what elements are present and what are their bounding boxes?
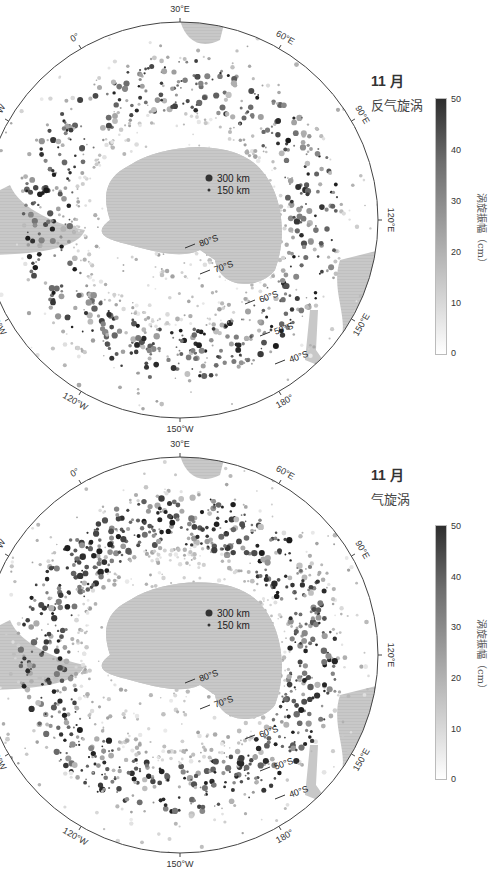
eddy-marker <box>101 585 106 590</box>
eddy-marker <box>212 322 216 326</box>
eddy-marker <box>107 573 109 575</box>
eddy-marker <box>186 355 192 361</box>
eddy-marker <box>302 133 306 137</box>
eddy-marker <box>12 557 14 559</box>
eddy-marker <box>83 595 85 597</box>
eddy-marker <box>179 825 181 827</box>
eddy-marker <box>233 571 237 575</box>
eddy-marker <box>153 549 157 553</box>
eddy-marker <box>106 738 112 744</box>
eddy-marker <box>253 149 257 153</box>
eddy-marker <box>224 781 227 784</box>
eddy-marker <box>290 200 294 204</box>
eddy-marker <box>181 723 183 725</box>
eddy-marker <box>256 490 258 492</box>
eddy-marker <box>229 798 235 804</box>
eddy-marker <box>306 551 308 553</box>
eddy-marker <box>45 577 50 582</box>
eddy-marker <box>284 575 287 578</box>
eddy-marker <box>100 125 106 131</box>
eddy-marker <box>108 347 111 350</box>
eddy-marker <box>308 348 310 350</box>
eddy-marker <box>329 631 332 634</box>
eddy-marker <box>200 787 202 789</box>
eddy-marker <box>139 702 142 705</box>
eddy-marker <box>196 342 202 348</box>
eddy-marker <box>281 696 283 698</box>
eddy-marker <box>287 668 290 671</box>
eddy-marker <box>232 543 234 545</box>
eddy-marker <box>182 78 187 83</box>
eddy-marker <box>87 252 91 256</box>
eddy-marker <box>79 272 81 274</box>
eddy-marker <box>64 720 69 725</box>
eddy-marker <box>121 349 126 354</box>
eddy-marker <box>97 217 100 220</box>
eddy-marker <box>246 149 249 152</box>
eddy-marker <box>13 580 16 583</box>
eddy-marker <box>176 346 178 348</box>
eddy-marker <box>38 783 42 787</box>
eddy-marker <box>39 147 43 151</box>
eddy-marker <box>172 337 174 339</box>
eddy-marker <box>88 786 90 788</box>
eddy-marker <box>188 515 194 521</box>
eddy-marker <box>218 331 222 335</box>
eddy-marker <box>65 628 68 631</box>
colorbar-tick: 20 <box>451 673 461 683</box>
eddy-marker <box>263 758 269 764</box>
eddy-marker <box>232 62 234 64</box>
eddy-marker <box>147 67 150 70</box>
eddy-marker <box>262 597 265 600</box>
eddy-marker <box>108 299 111 302</box>
eddy-marker <box>250 579 255 584</box>
eddy-marker <box>115 352 119 356</box>
eddy-marker <box>202 755 206 759</box>
eddy-marker <box>247 570 251 574</box>
eddy-marker <box>51 705 57 711</box>
eddy-marker <box>9 672 13 676</box>
eddy-marker <box>130 578 132 580</box>
eddy-marker <box>132 760 136 764</box>
eddy-marker <box>261 819 263 821</box>
eddy-marker <box>107 564 110 567</box>
eddy-marker <box>284 292 287 295</box>
eddy-marker <box>170 105 174 109</box>
eddy-marker <box>265 151 268 154</box>
eddy-marker <box>86 532 88 534</box>
eddy-marker <box>179 350 181 352</box>
colorbar <box>435 525 447 780</box>
eddy-marker <box>156 400 159 403</box>
eddy-marker <box>333 259 337 263</box>
eddy-marker <box>103 776 108 781</box>
eddy-marker <box>73 247 75 249</box>
eddy-marker <box>165 312 170 317</box>
eddy-marker <box>132 555 136 559</box>
eddy-marker <box>265 316 268 319</box>
eddy-marker <box>305 203 307 205</box>
eddy-marker <box>238 755 244 761</box>
eddy-marker <box>55 625 57 627</box>
eddy-marker <box>179 57 181 59</box>
eddy-marker <box>195 535 199 539</box>
eddy-marker <box>243 297 247 301</box>
eddy-marker <box>117 747 121 751</box>
eddy-marker <box>332 603 335 606</box>
eddy-marker <box>190 533 194 537</box>
eddy-marker <box>72 255 78 261</box>
eddy-marker <box>64 545 70 551</box>
eddy-marker <box>169 757 173 761</box>
eddy-marker <box>239 353 242 356</box>
eddy-marker <box>327 256 330 259</box>
eddy-marker <box>185 749 188 752</box>
eddy-marker <box>58 710 61 713</box>
eddy-marker <box>102 760 106 764</box>
eddy-marker <box>110 140 114 144</box>
eddy-marker <box>274 537 278 541</box>
eddy-marker <box>199 259 201 261</box>
eddy-marker <box>281 641 283 643</box>
eddy-marker <box>116 530 118 532</box>
eddy-marker <box>214 521 220 527</box>
eddy-marker <box>342 212 346 216</box>
eddy-marker <box>286 537 292 543</box>
